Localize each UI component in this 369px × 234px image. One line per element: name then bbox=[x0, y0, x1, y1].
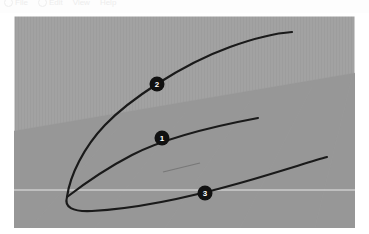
trajectory-marker-1-label: 1 bbox=[160, 134, 165, 143]
toolbar-item-help[interactable]: Help bbox=[100, 0, 116, 7]
toolbar-item-edit[interactable]: Edit bbox=[38, 0, 63, 7]
plot-figure[interactable]: 1 2 3 bbox=[0, 13, 369, 234]
toolbar-item-label: Help bbox=[100, 0, 116, 7]
trajectory-marker-3[interactable]: 3 bbox=[198, 186, 213, 201]
toolbar-item-label: View bbox=[73, 0, 90, 7]
trajectory-marker-3-label: 3 bbox=[203, 189, 208, 198]
toolbar-item-label: Edit bbox=[49, 0, 63, 7]
trajectory-marker-1[interactable]: 1 bbox=[155, 131, 170, 146]
toolbar-item-label: File bbox=[15, 0, 28, 7]
toolbar-item-file[interactable]: File bbox=[4, 0, 28, 7]
toolbar-item-view[interactable]: View bbox=[73, 0, 90, 7]
menu-icon bbox=[4, 0, 13, 7]
circle-icon bbox=[38, 0, 47, 7]
window-toolbar: File Edit View Help bbox=[0, 0, 369, 13]
plot-canvas[interactable]: 1 2 3 bbox=[0, 13, 369, 234]
trajectory-marker-2[interactable]: 2 bbox=[150, 77, 165, 92]
trajectory-marker-2-label: 2 bbox=[155, 80, 160, 89]
toolbar-row: File Edit View Help bbox=[4, 0, 116, 9]
